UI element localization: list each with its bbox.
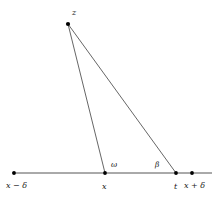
point-label-x-minus-delta: x − δ [6,182,27,190]
point-label-x: x [102,183,107,191]
point-x [103,171,107,175]
segment-z-to-x [68,24,105,173]
point-label-x-plus-delta: x + δ [184,182,205,190]
point-label-z: z [72,9,76,17]
point-t [174,171,178,175]
angle-label-beta: β [155,161,159,169]
angle-label-omega: ω [111,161,117,169]
point-z [66,22,70,26]
geometry-figure: z x − δ x t x + δ ω β [0,0,222,202]
point-label-t: t [174,183,177,191]
point-x-minus-delta [12,171,16,175]
point-x-plus-delta [190,171,194,175]
segment-z-to-t [68,24,176,173]
figure-canvas [0,0,222,202]
